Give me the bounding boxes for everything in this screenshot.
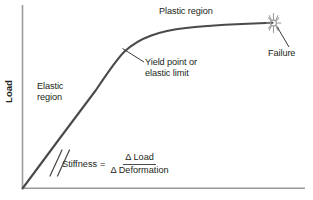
yield-point-label-line2: elastic limit xyxy=(145,68,233,79)
yield-point-leader-line xyxy=(123,49,145,63)
load-deformation-chart: Load Plastic region Elastic region Yield… xyxy=(0,0,313,200)
yield-point-label: Yield point or elastic limit xyxy=(145,57,233,78)
stiffness-formula-label: Stiffness xyxy=(62,159,97,169)
stiffness-formula-equals: = xyxy=(100,159,105,169)
elastic-region-label: Elastic region xyxy=(37,81,87,102)
yield-point-label-line1: Yield point or xyxy=(145,57,233,68)
y-axis-label: Load xyxy=(3,72,14,112)
failure-leader-line xyxy=(278,28,290,48)
stiffness-formula-fraction: Δ Load Δ Deformation xyxy=(108,152,170,176)
stiffness-formula: Stiffness = Δ Load Δ Deformation xyxy=(62,152,171,176)
failure-label: Failure xyxy=(268,48,295,59)
plastic-region-label: Plastic region xyxy=(159,6,213,17)
elastic-region-label-line2: region xyxy=(37,92,87,103)
stiffness-formula-numerator: Δ Load xyxy=(123,152,156,165)
elastic-region-label-line1: Elastic xyxy=(37,81,87,92)
stiffness-formula-denominator: Δ Deformation xyxy=(108,165,170,177)
